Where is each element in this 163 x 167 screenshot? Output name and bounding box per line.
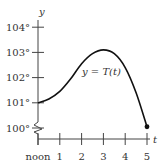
y-tick-label: 103°	[6, 47, 30, 58]
curve-label: y = T(t)	[81, 66, 121, 77]
end-point-marker	[145, 124, 150, 129]
y-axis-label: y	[38, 6, 45, 17]
x-axis-label: t	[153, 134, 158, 145]
x-tick-label: 1	[57, 151, 63, 162]
temperature-chart: 100°101°102°103°104° noon12345 y t y = T…	[0, 0, 163, 167]
temperature-curve	[38, 50, 147, 127]
y-tick-label: 104°	[6, 22, 30, 33]
x-tick-label: noon	[26, 151, 51, 162]
x-tick-label: 2	[78, 151, 84, 162]
x-tick-label: 5	[144, 151, 150, 162]
x-tick-label: 4	[122, 151, 128, 162]
x-ticks: noon12345	[26, 133, 151, 162]
x-tick-label: 3	[100, 151, 106, 162]
y-tick-label: 102°	[6, 72, 30, 83]
y-tick-label: 101°	[6, 97, 30, 108]
y-tick-label: 100°	[6, 123, 30, 134]
